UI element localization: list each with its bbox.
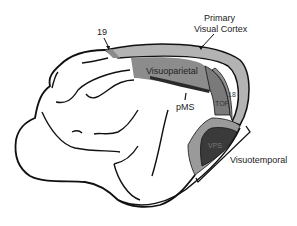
- area19-arrow: [104, 38, 108, 46]
- sulcus-8: [152, 110, 168, 176]
- sulcus-2: [52, 72, 58, 88]
- sulcus-6: [94, 110, 138, 134]
- sulcus-10: [114, 164, 140, 200]
- sulcus-7: [72, 131, 82, 133]
- visuotemporal-label: Visuotemporal: [230, 155, 287, 165]
- pms-arrow: [185, 93, 186, 100]
- pms-label: pMS: [176, 102, 195, 112]
- visuoparietal-label: Visuoparietal: [146, 66, 198, 76]
- brain-drawing: [0, 0, 297, 226]
- sulcus-4: [86, 80, 134, 98]
- top-label: TOP: [215, 99, 229, 109]
- area19-label: 19: [97, 27, 107, 37]
- sulcus-1: [82, 58, 108, 63]
- primary-visual-cortex-label-line2: Visual Cortex: [194, 24, 247, 34]
- primary-visual-cortex-arrow: [202, 34, 214, 47]
- vps-label: VPS: [208, 141, 222, 151]
- sulcus-9: [114, 146, 138, 164]
- primary-visual-cortex-label-line1: Primary: [204, 13, 235, 23]
